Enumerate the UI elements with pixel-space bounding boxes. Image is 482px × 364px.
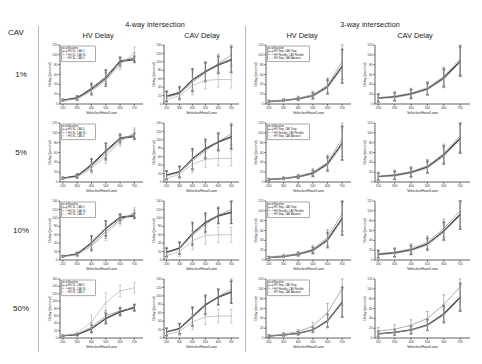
svg-text:140: 140	[52, 199, 57, 203]
svg-text:20: 20	[54, 329, 58, 333]
svg-text:700: 700	[340, 106, 345, 110]
svg-text:600: 600	[441, 340, 446, 344]
svg-text:80: 80	[260, 63, 264, 67]
svg-text:400: 400	[296, 262, 301, 266]
figure-root: 4-way intersection 3-way intersection HV…	[0, 0, 482, 364]
svg-text:40: 40	[369, 238, 373, 242]
svg-text:20: 20	[158, 250, 162, 254]
svg-text:40: 40	[54, 321, 58, 325]
svg-text:600: 600	[118, 184, 123, 188]
section-title-4way: 4-way intersection	[75, 20, 235, 29]
svg-text:40: 40	[54, 241, 58, 245]
svg-text:120: 120	[258, 121, 263, 125]
svg-text:0: 0	[371, 102, 373, 106]
svg-text:200: 200	[60, 106, 65, 110]
svg-text:Vehicles/Hour/Lane: Vehicles/Hour/Lane	[293, 267, 324, 271]
chart-panel-4way-hv-50: 020406080100120140160200300400500600700V…	[47, 276, 147, 350]
svg-text:400: 400	[296, 340, 301, 344]
svg-text:120: 120	[367, 121, 372, 125]
svg-text:20: 20	[54, 250, 58, 254]
svg-text:100: 100	[156, 294, 161, 298]
svg-text:120: 120	[367, 199, 372, 203]
svg-text:300: 300	[392, 262, 397, 266]
svg-text:600: 600	[441, 106, 446, 110]
svg-text:Baseline: Baseline	[274, 124, 285, 128]
svg-text:100: 100	[367, 209, 372, 213]
svg-text:40: 40	[54, 82, 58, 86]
chart-panel-3way-cav-10: 020406080100120200300400500600700Vehicle…	[362, 198, 474, 272]
svg-text:100: 100	[156, 138, 161, 142]
svg-text:20: 20	[260, 248, 264, 252]
svg-text:500: 500	[103, 262, 108, 266]
svg-text:300: 300	[75, 340, 80, 344]
svg-text:300: 300	[281, 106, 286, 110]
svg-text:40: 40	[260, 238, 264, 242]
svg-text:500: 500	[425, 262, 430, 266]
svg-text:Delay (second): Delay (second)	[152, 218, 156, 242]
chart-panel-4way-cav-1: 020406080100120140200300400500600700Vehi…	[151, 42, 243, 116]
svg-text:400: 400	[408, 262, 413, 266]
svg-text:200: 200	[376, 106, 381, 110]
svg-text:Delay (second): Delay (second)	[254, 140, 258, 164]
row-label-5pct: 5%	[6, 148, 36, 157]
svg-text:100: 100	[52, 131, 57, 135]
svg-text:20: 20	[369, 92, 373, 96]
svg-text:600: 600	[118, 106, 123, 110]
svg-text:200: 200	[266, 262, 271, 266]
svg-text:500: 500	[310, 340, 315, 344]
svg-text:60: 60	[260, 73, 264, 77]
svg-text:100: 100	[258, 53, 263, 57]
svg-text:HV Flexible, CAV Flexible: HV Flexible, CAV Flexible	[274, 131, 304, 135]
svg-text:200: 200	[60, 262, 65, 266]
chart-panel-4way-hv-10: 020406080100120140200300400500600700Vehi…	[47, 198, 147, 272]
svg-text:300: 300	[177, 106, 182, 110]
svg-text:600: 600	[325, 262, 330, 266]
svg-text:Delay (second): Delay (second)	[254, 218, 258, 242]
svg-text:500: 500	[203, 340, 208, 344]
svg-text:Baseline: Baseline	[68, 280, 79, 284]
row-label-50pct: 50%	[6, 304, 36, 313]
svg-text:Delay (second): Delay (second)	[48, 140, 52, 164]
svg-text:600: 600	[216, 184, 221, 188]
svg-text:500: 500	[103, 106, 108, 110]
svg-text:60: 60	[369, 73, 373, 77]
svg-text:80: 80	[158, 146, 162, 150]
svg-text:Vehicles/Hour/Lane: Vehicles/Hour/Lane	[86, 267, 117, 271]
svg-text:HV-SL, CAV-4: HV-SL, CAV-4	[68, 56, 85, 60]
svg-text:60: 60	[260, 151, 264, 155]
svg-text:Vehicles/Hour/Lane: Vehicles/Hour/Lane	[407, 345, 438, 349]
svg-text:HV Stop, CAV Advance: HV Stop, CAV Advance	[274, 56, 301, 60]
chart-panel-3way-cav-5: 020406080100120200300400500600700Vehicle…	[362, 120, 474, 194]
svg-text:140: 140	[52, 284, 57, 288]
svg-text:0: 0	[371, 180, 373, 184]
svg-text:700: 700	[229, 106, 234, 110]
svg-text:HV Stop, CAV Stop: HV Stop, CAV Stop	[274, 283, 297, 287]
svg-text:600: 600	[325, 106, 330, 110]
svg-text:100: 100	[258, 131, 263, 135]
svg-text:Delay (second): Delay (second)	[48, 62, 52, 86]
svg-text:HV-SL, CAV-4: HV-SL, CAV-4	[68, 212, 85, 216]
svg-text:600: 600	[216, 340, 221, 344]
svg-text:200: 200	[60, 184, 65, 188]
svg-text:Delay (second): Delay (second)	[48, 296, 52, 320]
svg-text:400: 400	[190, 262, 195, 266]
svg-text:600: 600	[325, 184, 330, 188]
svg-text:100: 100	[52, 53, 57, 57]
svg-text:600: 600	[325, 340, 330, 344]
svg-text:120: 120	[156, 52, 161, 56]
svg-text:60: 60	[369, 229, 373, 233]
svg-text:500: 500	[103, 340, 108, 344]
column-header-cav-delay-4way: CAV Delay	[152, 31, 252, 40]
svg-text:500: 500	[310, 106, 315, 110]
svg-text:Delay (second): Delay (second)	[152, 296, 156, 320]
svg-text:300: 300	[281, 184, 286, 188]
chart-panel-3way-cav-50: 020406080100120200300400500600700Vehicle…	[362, 276, 474, 350]
svg-text:400: 400	[296, 184, 301, 188]
chart-panel-4way-cav-5: 020406080100120140200300400500600700Vehi…	[151, 120, 243, 194]
svg-text:20: 20	[54, 92, 58, 96]
svg-text:0: 0	[160, 102, 162, 106]
svg-text:500: 500	[203, 106, 208, 110]
svg-text:40: 40	[158, 241, 162, 245]
svg-text:140: 140	[156, 199, 161, 203]
svg-text:Vehicles/Hour/Lane: Vehicles/Hour/Lane	[407, 267, 438, 271]
